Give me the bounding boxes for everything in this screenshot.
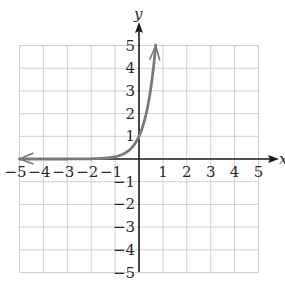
x-tick-label: −2 [76, 163, 98, 181]
y-tick-label: −3 [113, 218, 135, 236]
x-tick-label: −4 [28, 163, 50, 181]
y-axis-label: y [133, 5, 143, 23]
curve-path [20, 45, 156, 159]
x-tick-label: 4 [230, 163, 240, 181]
x-tick-label: −3 [52, 163, 74, 181]
y-tick-label: 4 [125, 59, 135, 77]
y-tick-label: −2 [113, 195, 135, 213]
y-tick-label: 1 [125, 127, 135, 145]
graph: x y −5−4−3−2−112345 54321−1−2−3−4−5 [0, 0, 285, 287]
y-tick-label: −4 [113, 241, 135, 259]
x-tick-label: 3 [206, 163, 216, 181]
x-tick-label: −5 [4, 163, 26, 181]
y-tick-label: 3 [125, 82, 135, 100]
y-tick-label: −5 [113, 264, 135, 282]
y-tick-label: 5 [125, 37, 135, 55]
x-tick-label: 5 [254, 163, 264, 181]
x-tick-label: 1 [158, 163, 168, 181]
y-tick-label: −1 [113, 173, 135, 191]
y-tick-label: 2 [125, 105, 135, 123]
x-tick-label: 2 [182, 163, 192, 181]
x-axis-label: x [279, 150, 285, 168]
